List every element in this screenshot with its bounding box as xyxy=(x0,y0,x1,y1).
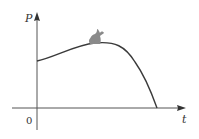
rabbit-icon xyxy=(89,29,104,44)
population-curve xyxy=(37,43,157,108)
y-axis-arrow-icon xyxy=(34,12,40,21)
origin-label: 0 xyxy=(26,115,32,126)
x-axis-arrow-icon xyxy=(177,105,186,111)
x-axis-label: t xyxy=(182,113,187,126)
population-graph: P t 0 xyxy=(0,0,199,139)
y-axis-label: P xyxy=(24,12,33,25)
